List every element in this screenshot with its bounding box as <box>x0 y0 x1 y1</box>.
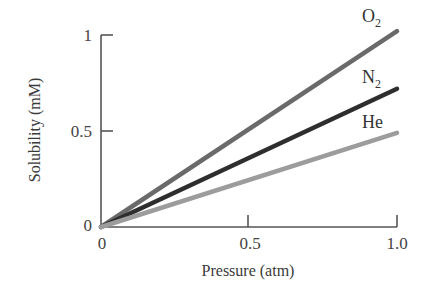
series-line-n2 <box>101 89 397 227</box>
y-axis-title: Solubility (mM) <box>26 78 44 182</box>
x-axis-title: Pressure (atm) <box>202 262 295 280</box>
y-axis <box>101 35 113 227</box>
series-line-he <box>101 133 397 227</box>
series-label-n2: N2 <box>362 67 381 91</box>
chart-canvas: 1 0.5 0 0 0.5 1.0 Pressure (atm) Solubil… <box>0 0 432 293</box>
y-tick-label: 0 <box>84 216 93 235</box>
x-tick-label: 1.0 <box>386 234 407 253</box>
y-tick-label: 1 <box>84 26 93 45</box>
x-tick-label: 0.5 <box>239 234 260 253</box>
series-line-o2 <box>101 31 397 227</box>
series-label-he: He <box>362 112 383 132</box>
y-tick-label: 0.5 <box>71 122 92 141</box>
series-label-o2: O2 <box>362 6 381 30</box>
x-axis <box>101 215 397 227</box>
x-tick-label: 0 <box>98 234 107 253</box>
